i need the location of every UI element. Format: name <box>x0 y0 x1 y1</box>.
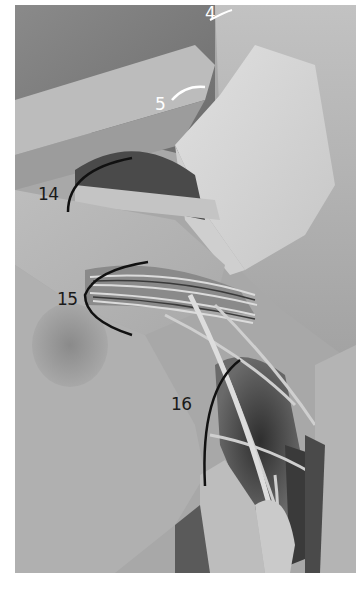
label-16: 16 <box>171 396 192 413</box>
label-4: 4 <box>205 5 215 22</box>
label-5: 5 <box>155 96 165 113</box>
label-15: 15 <box>57 291 78 308</box>
label-14: 14 <box>38 186 59 203</box>
